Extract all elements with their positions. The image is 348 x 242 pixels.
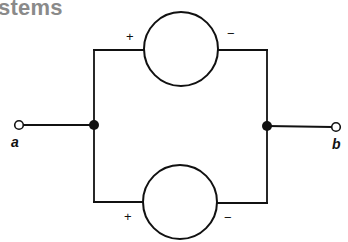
terminal-b-label: b — [332, 136, 341, 152]
bottom-source-circle-icon — [143, 165, 217, 239]
terminal-a-icon — [15, 121, 24, 130]
terminal-b-icon — [332, 123, 341, 132]
bottom-source-plus-sign: + — [124, 209, 132, 224]
wire-right-junction-to-b — [267, 126, 332, 127]
top-source-plus-sign: + — [126, 29, 134, 44]
parallel-circuit-diagram: + − + − a b — [0, 0, 348, 242]
top-source-minus-sign: − — [227, 26, 235, 41]
right-junction-dot-icon — [262, 121, 272, 131]
bottom-source-minus-sign: − — [224, 210, 232, 225]
terminal-a-label: a — [11, 134, 19, 150]
top-source-circle-icon — [144, 12, 218, 86]
left-junction-dot-icon — [89, 120, 99, 130]
